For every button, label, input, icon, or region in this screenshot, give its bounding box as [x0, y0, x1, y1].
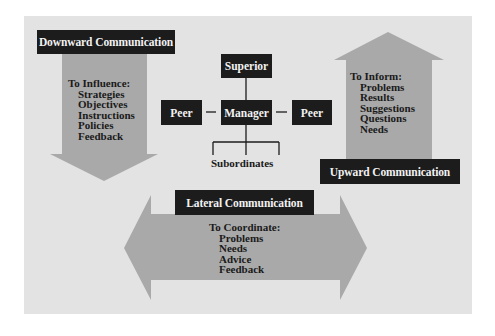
org-subordinates-label: Subordinates: [211, 157, 273, 169]
downward-heading: To Influence:: [68, 78, 135, 89]
org-node-peer-left: Peer: [161, 100, 202, 125]
org-node-peer-right: Peer: [292, 100, 332, 125]
downward-item: Feedback: [68, 131, 135, 142]
upward-communication-label: Upward Communication: [320, 159, 460, 184]
upward-item: Needs: [350, 124, 415, 135]
upward-text: To Inform: Problems Results Suggestions …: [350, 71, 415, 135]
upward-heading: To Inform:: [350, 71, 415, 82]
lateral-communication-label: Lateral Communication: [175, 190, 314, 215]
lateral-heading: To Coordinate:: [209, 222, 280, 233]
org-node-manager: Manager: [221, 100, 272, 125]
downward-communication-label: Downward Communication: [37, 30, 175, 54]
org-node-superior: Superior: [221, 54, 272, 78]
downward-text: To Influence: Strategies Objectives Inst…: [68, 78, 135, 142]
lateral-item: Feedback: [209, 264, 280, 275]
lateral-text: To Coordinate: Problems Needs Advice Fee…: [209, 222, 280, 275]
